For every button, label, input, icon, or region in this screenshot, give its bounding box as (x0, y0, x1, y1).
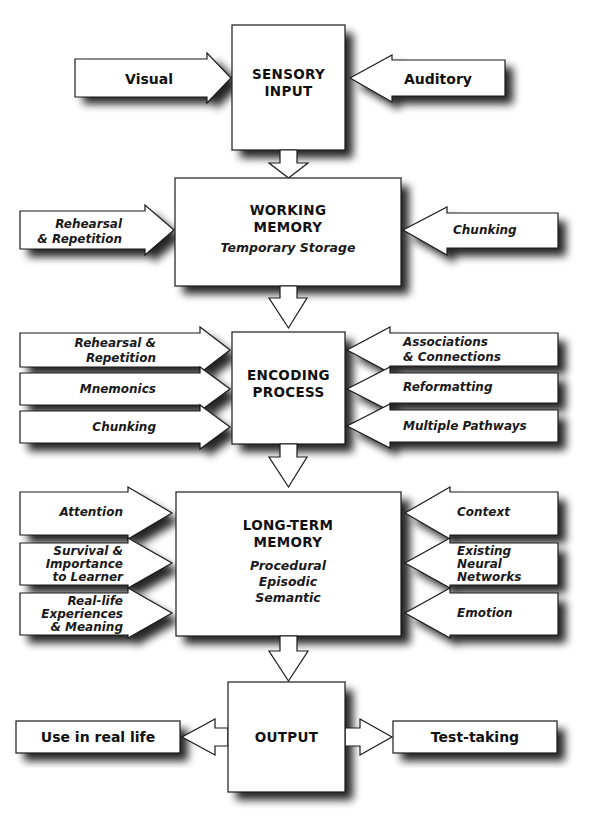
longterm-right-1-line1: Context (457, 505, 511, 519)
longterm-type-1: Procedural (250, 558, 327, 573)
longterm-type-3: Semantic (255, 590, 321, 605)
long-term-memory-stage: Attention Survival & Importance to Learn… (20, 487, 558, 638)
encoding-right-1-line2: & Connections (403, 350, 501, 364)
longterm-right-2-line2: Neural (457, 557, 503, 571)
use-in-real-life-label: Use in real life (41, 729, 155, 745)
longterm-type-2: Episodic (259, 574, 318, 589)
test-taking-label: Test-taking (431, 729, 519, 745)
encoding-left-1-line2: Repetition (86, 351, 156, 365)
encoding-title-line2: PROCESS (253, 384, 325, 400)
encoding-left-arrow-1 (20, 327, 230, 373)
longterm-left-2-line2: Importance (46, 557, 123, 571)
memory-process-diagram: Visual Auditory SENSORY INPUT Rehearsal … (0, 0, 589, 821)
output-stage: Use in real life Test-taking OUTPUT (16, 682, 557, 792)
output-title: OUTPUT (255, 729, 319, 745)
longterm-title-line1: LONG-TERM (243, 517, 334, 533)
longterm-left-3-line1: Real-life (67, 594, 123, 608)
encoding-left-1-line1: Rehearsal & (75, 336, 156, 350)
sensory-title-line2: INPUT (265, 83, 313, 99)
encoding-right-1-line1: Associations (402, 335, 488, 349)
chunking-label-working: Chunking (453, 223, 517, 237)
working-subtitle: Temporary Storage (221, 240, 356, 255)
longterm-left-3-line2: Experiences (41, 607, 123, 621)
output-left-arrow (182, 719, 228, 755)
encoding-left-2-line1: Mnemonics (80, 382, 156, 396)
visual-label: Visual (125, 71, 173, 87)
longterm-right-2-line3: Networks (457, 570, 521, 584)
longterm-right-3-line1: Emotion (457, 606, 513, 620)
longterm-left-2-line3: to Learner (52, 570, 124, 584)
encoding-title-line1: ENCODING (247, 367, 330, 383)
working-title-line1: WORKING (250, 202, 327, 218)
encoding-stage: Rehearsal & Repetition Mnemonics Chunkin… (20, 327, 558, 449)
sensory-input-stage: Visual Auditory SENSORY INPUT (75, 25, 505, 150)
longterm-left-2-line1: Survival & (53, 544, 123, 558)
sensory-title-line1: SENSORY (252, 66, 325, 82)
encoding-left-3-line1: Chunking (92, 420, 156, 434)
working-memory-stage: Rehearsal & Repetition Chunking WORKING … (20, 178, 558, 286)
rehearsal-label-line2: & Repetition (37, 232, 122, 246)
working-title-line2: MEMORY (254, 219, 323, 235)
encoding-right-3-line1: Multiple Pathways (403, 419, 527, 433)
longterm-right-2-line1: Existing (457, 544, 512, 558)
encoding-right-2-line1: Reformatting (403, 380, 493, 394)
auditory-label: Auditory (404, 71, 472, 87)
rehearsal-label-line1: Rehearsal (55, 217, 123, 231)
longterm-title-line2: MEMORY (254, 534, 323, 550)
longterm-left-1-line1: Attention (59, 505, 123, 519)
longterm-left-3-line3: & Meaning (50, 620, 123, 634)
